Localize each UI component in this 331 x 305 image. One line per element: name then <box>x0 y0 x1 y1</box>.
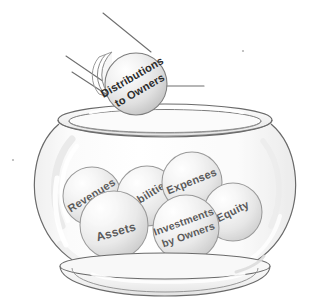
illustration-root: Distributions to Owners Revenues Liabili… <box>0 0 331 305</box>
scene-svg: Distributions to Owners Revenues Liabili… <box>0 0 331 305</box>
speck-right <box>242 50 244 52</box>
bowl-base <box>60 253 270 296</box>
speck-left <box>12 159 14 161</box>
